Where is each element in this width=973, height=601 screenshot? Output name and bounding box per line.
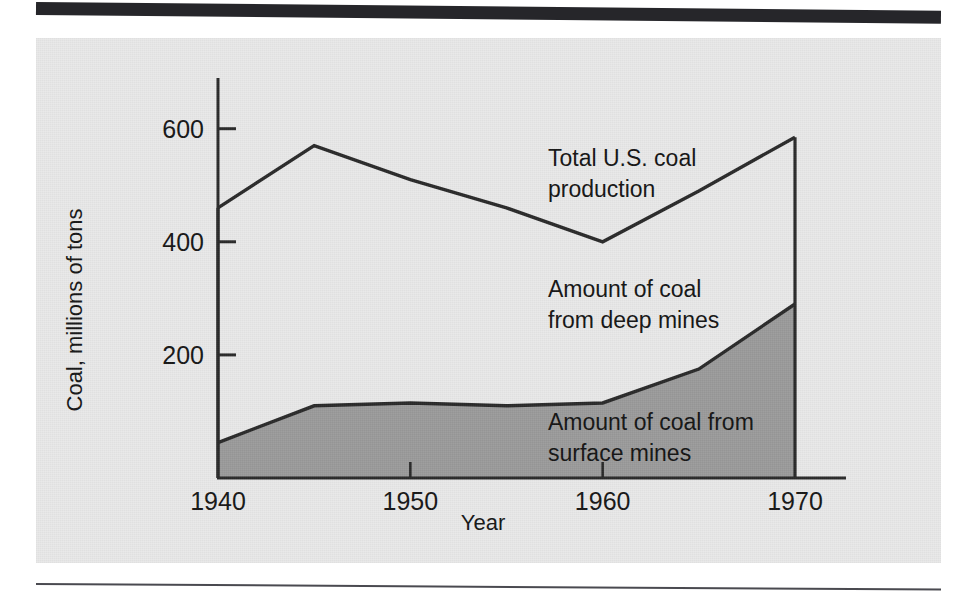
x-tick-label-1940: 1940 (190, 487, 246, 515)
deep-mines-label-line1: Amount of coal (548, 276, 701, 302)
y-tick-label-200: 200 (162, 341, 204, 369)
surface-mines-label-line2: surface mines (548, 440, 691, 466)
x-tick-label-1970: 1970 (767, 487, 823, 515)
page-bottom-rule (36, 583, 941, 591)
deep-mines-label-line2: from deep mines (548, 307, 719, 333)
total-production-label-line2: production (548, 176, 655, 202)
x-tick-label-1960: 1960 (575, 487, 631, 515)
total-production-line (218, 137, 795, 242)
chart-panel: 600 400 200 1940 1950 1960 1970 Coal, mi… (36, 38, 941, 563)
coal-production-area-chart: 600 400 200 1940 1950 1960 1970 Coal, mi… (36, 38, 941, 563)
x-tick-label-1950: 1950 (383, 487, 439, 515)
y-axis-ticks (218, 129, 236, 355)
surface-mines-label-line1: Amount of coal from (548, 409, 754, 435)
page-top-rule (36, 2, 941, 24)
y-axis-title: Coal, millions of tons (62, 209, 87, 412)
y-tick-label-600: 600 (162, 115, 204, 143)
y-tick-label-400: 400 (162, 228, 204, 256)
x-axis-title: Year (461, 510, 505, 535)
total-production-label-line1: Total U.S. coal (548, 145, 696, 171)
